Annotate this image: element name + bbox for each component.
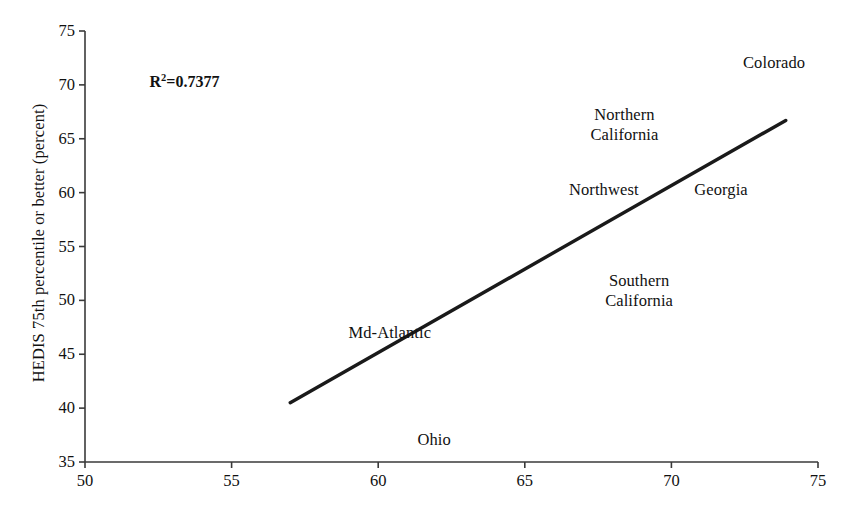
y-tick-label: 60 — [39, 185, 75, 202]
x-tick-label: 50 — [63, 473, 107, 490]
point-label-northwest: Northwest — [569, 180, 639, 200]
r-squared-annotation: R2=0.7377 — [150, 74, 220, 90]
point-label-line: Ohio — [417, 430, 450, 450]
point-label-northern-california: NorthernCalifornia — [590, 105, 658, 145]
point-label-line: Southern — [605, 271, 673, 291]
y-axis-ticks — [79, 31, 85, 462]
y-tick-label: 40 — [39, 400, 75, 417]
point-label-line: Northwest — [569, 180, 639, 200]
point-label-line: Colorado — [743, 53, 805, 73]
y-tick-label: 55 — [39, 239, 75, 256]
point-label-line: Northern — [590, 105, 658, 125]
point-label-line: Md-Atlantic — [348, 323, 431, 343]
r-squared-value: =0.7377 — [166, 73, 219, 90]
y-tick-label: 45 — [39, 346, 75, 363]
x-tick-label: 70 — [649, 473, 693, 490]
y-tick-label: 65 — [39, 131, 75, 148]
x-axis-ticks — [85, 462, 818, 468]
point-label-line: California — [590, 125, 658, 145]
point-label-line: Georgia — [694, 180, 748, 200]
point-label-southern-california: SouthernCalifornia — [605, 271, 673, 311]
regression-trendline — [290, 120, 786, 402]
point-label-georgia: Georgia — [694, 180, 748, 200]
point-label-md-atlantic: Md-Atlantic — [348, 323, 431, 343]
y-tick-label: 70 — [39, 77, 75, 94]
x-tick-label: 55 — [210, 473, 254, 490]
y-tick-label: 75 — [39, 23, 75, 40]
x-tick-label: 65 — [503, 473, 547, 490]
y-tick-label: 35 — [39, 454, 75, 471]
r-squared-prefix: R — [150, 73, 162, 90]
chart-figure: HEDIS 75th percentile or better (percent… — [0, 0, 848, 516]
y-tick-label: 50 — [39, 292, 75, 309]
x-tick-label: 60 — [356, 473, 400, 490]
point-label-line: California — [605, 291, 673, 311]
point-label-ohio: Ohio — [417, 430, 450, 450]
point-label-colorado: Colorado — [743, 53, 805, 73]
x-tick-label: 75 — [796, 473, 840, 490]
